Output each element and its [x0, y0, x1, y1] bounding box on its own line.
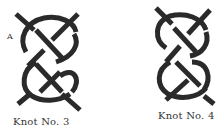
knot-3-diagram [0, 0, 110, 112]
knot-3-caption: Knot No. 3 [13, 116, 69, 127]
knot-4-figure: Knot No. 4 [110, 0, 221, 129]
knot-4-diagram [110, 0, 221, 108]
knot-4-caption: Knot No. 4 [158, 110, 214, 121]
knot-3-figure: A Knot No. 3 [0, 0, 110, 129]
